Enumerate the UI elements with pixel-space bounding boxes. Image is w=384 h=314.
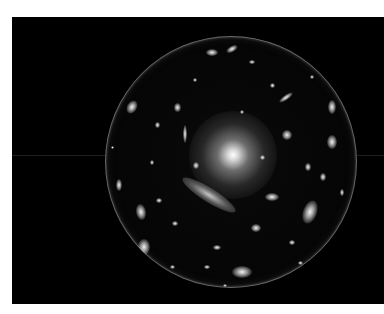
lens-sphere xyxy=(105,36,357,288)
sphere-rim xyxy=(105,36,357,288)
image-panel xyxy=(12,17,384,304)
galaxy xyxy=(130,75,135,80)
